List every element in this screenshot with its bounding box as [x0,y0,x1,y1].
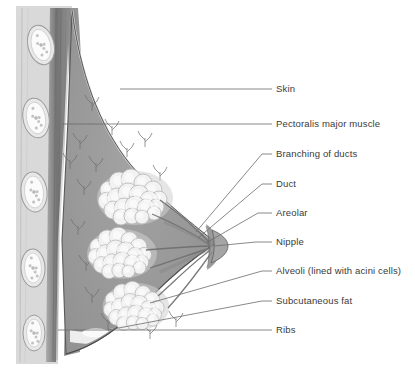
label-subcutaneous: Subcutaneous fat [276,296,352,306]
label-areolar: Areolar [276,208,308,218]
label-skin: Skin [276,84,295,94]
label-alveoli: Alveoli (lined with acini cells) [276,266,401,276]
breast-anatomy-diagram: SkinPectoralis major muscleBranching of … [0,0,415,370]
label-duct: Duct [276,179,296,189]
label-pectoralis: Pectoralis major muscle [276,119,380,129]
label-branching: Branching of ducts [276,149,357,159]
labels-layer: SkinPectoralis major muscleBranching of … [0,0,415,370]
label-ribs: Ribs [276,325,296,335]
label-nipple: Nipple [276,237,304,247]
